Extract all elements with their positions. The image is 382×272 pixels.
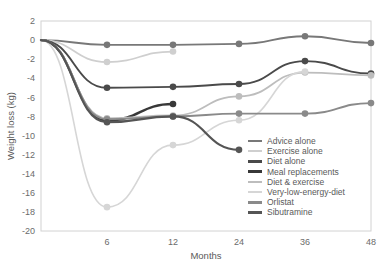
legend-item-label: Exercise alone [267,146,323,156]
series-line [41,40,371,119]
y-axis-tick-label: -4 [27,73,35,83]
data-point-marker [170,101,177,108]
data-point-marker [170,142,177,149]
series-advice-alone [41,33,374,48]
legend-item-label: Very-low-energy-diet [267,187,345,197]
legend-item-label: Diet alone [267,156,305,166]
data-point-marker [302,68,309,75]
legend-item[interactable]: Diet alone [248,156,378,166]
data-point-marker [236,41,243,48]
x-axis-tick-label: 12 [168,237,178,247]
y-axis-title: Weight loss (kg) [5,92,16,160]
legend-item[interactable]: Meal replacements [248,167,378,177]
x-axis-tick-label: 48 [366,237,376,247]
data-point-marker [236,81,243,88]
legend-item-label: Sibutramine [267,207,312,217]
legend-swatch-icon [248,160,262,163]
data-point-marker [104,204,111,211]
x-axis-title: Months [190,250,221,261]
data-point-marker [236,147,243,154]
legend-item[interactable]: Sibutramine [248,207,378,217]
x-axis-tick-label: 24 [234,237,244,247]
y-axis-tick-label: -14 [22,169,35,179]
series-diet-alone [41,40,374,91]
series-line [41,40,371,88]
data-point-marker [104,59,111,66]
series-line [41,40,371,118]
series-orlistat [41,40,374,123]
legend-swatch-icon [248,140,262,143]
legend-swatch-icon [248,201,262,204]
legend-swatch-icon [248,150,262,152]
legend-item-label: Meal replacements [267,167,339,177]
legend-swatch-icon [248,191,262,193]
y-axis-tick-label: 2 [30,16,35,26]
legend-item[interactable]: Very-low-energy-diet [248,187,378,197]
legend-item[interactable]: Exercise alone [248,146,378,156]
weight-loss-line-chart: 20-2-4-6-8-10-12-14-16-18-20612243648Mon… [0,0,382,272]
legend-item[interactable]: Orlistat [248,197,378,207]
data-point-marker [236,93,243,100]
legend-swatch-icon [248,211,262,214]
legend-item-label: Orlistat [267,197,294,207]
legend-swatch-icon [248,170,262,173]
chart-legend: Advice aloneExercise aloneDiet aloneMeal… [248,136,378,218]
data-point-marker [368,72,375,79]
data-point-marker [302,33,309,40]
y-axis-tick-label: -10 [22,131,35,141]
y-axis-tick-label: 0 [30,35,35,45]
legend-item[interactable]: Advice alone [248,136,378,146]
legend-item-label: Advice alone [267,136,316,146]
y-axis-tick-label: -20 [22,226,35,236]
y-axis-tick-label: -6 [27,93,35,103]
data-point-marker [302,110,309,117]
data-point-marker [170,42,177,49]
data-point-marker [236,110,243,117]
data-point-marker [368,40,375,47]
y-axis-tick-label: -18 [22,207,35,217]
legend-item[interactable]: Diet & exercise [248,177,378,187]
data-point-marker [368,100,375,107]
series-diet-exercise [41,40,374,122]
series-line [41,36,371,45]
x-axis-tick-label: 6 [104,237,109,247]
data-point-marker [170,113,177,120]
y-axis-tick-label: -8 [27,112,35,122]
legend-swatch-icon [248,181,262,183]
x-axis-tick-label: 36 [300,237,310,247]
legend-item-label: Diet & exercise [267,177,324,187]
y-axis-tick-label: -12 [22,150,35,160]
data-point-marker [302,58,309,65]
data-point-marker [104,42,111,49]
y-axis-tick-label: -16 [22,188,35,198]
data-point-marker [236,117,243,124]
data-point-marker [170,48,177,55]
data-point-marker [104,85,111,92]
data-point-marker [170,84,177,91]
data-point-marker [104,119,111,126]
y-axis-tick-label: -2 [27,54,35,64]
